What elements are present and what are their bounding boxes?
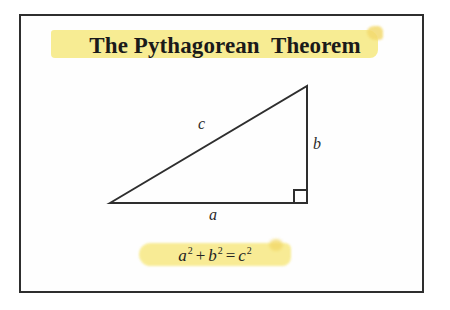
triangle-outline — [110, 86, 307, 203]
slide-canvas: The Pythagorean Theorem c b a a2+b2=c2 — [0, 0, 450, 310]
right-angle-marker-icon — [294, 190, 307, 203]
formula-c-exponent: 2 — [247, 245, 252, 256]
horizontal-leg-label: a — [209, 206, 217, 224]
formula-b-base: b — [208, 246, 217, 265]
pythagorean-formula: a2+b2=c2 — [139, 245, 291, 266]
vertical-leg-label: b — [313, 135, 321, 153]
formula-a-base: a — [178, 246, 187, 265]
formula-equals-operator: = — [226, 246, 236, 265]
formula-b-exponent: 2 — [218, 245, 223, 256]
hypotenuse-label: c — [198, 115, 205, 133]
formula-c-base: c — [238, 246, 246, 265]
formula-plus-operator: + — [196, 246, 206, 265]
formula-a-exponent: 2 — [188, 245, 193, 256]
